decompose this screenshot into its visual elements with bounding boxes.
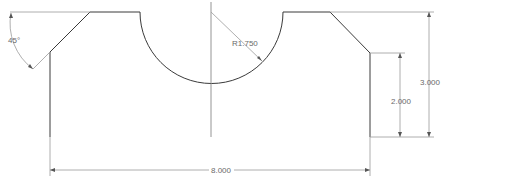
width-label: 8.000 <box>211 166 232 175</box>
radius-dimension: R1.750 <box>211 12 262 61</box>
width-dimension: 8.000 <box>50 137 370 176</box>
right-chamfer <box>330 12 370 53</box>
left-chamfer <box>50 12 90 52</box>
step-height-label: 2.000 <box>391 97 412 106</box>
drawing-canvas: R1.750 45° 8.000 3.000 2.000 <box>0 0 507 182</box>
part-outline <box>50 12 370 137</box>
angle-label: 45° <box>8 36 20 45</box>
height-dimension: 3.000 <box>330 12 441 137</box>
angle-dimension: 45° <box>8 12 90 69</box>
radius-label: R1.750 <box>232 39 258 48</box>
height-label: 3.000 <box>420 78 441 87</box>
step-height-dimension: 2.000 <box>370 53 412 137</box>
semicircle-cutout <box>140 12 283 84</box>
